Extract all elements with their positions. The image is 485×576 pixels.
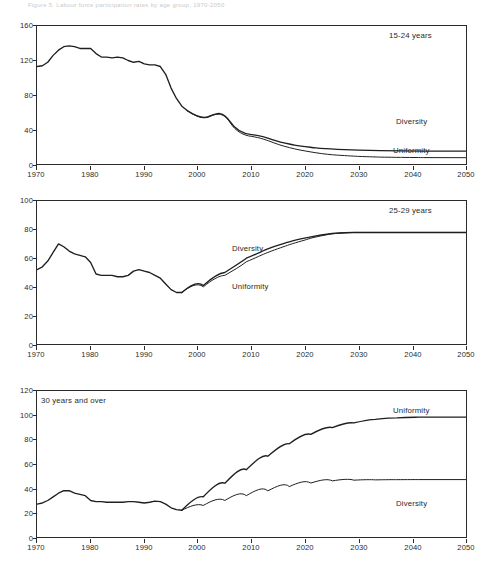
xtick-label-15-24-1990: 1990 <box>135 170 152 179</box>
xtick-label-15-24-1980: 1980 <box>81 170 98 179</box>
xtick-label-15-24-2030: 2030 <box>350 170 367 179</box>
xtick-mark-30-plus-2010 <box>251 539 252 543</box>
xtick-label-30-plus-2020: 2020 <box>296 543 313 552</box>
xtick-mark-25-29-2040 <box>413 346 414 350</box>
xtick-label-25-29-2050: 2050 <box>457 350 474 359</box>
xtick-label-30-plus-1990: 1990 <box>135 543 152 552</box>
series-label-diversity-30-plus: Diversity <box>396 499 427 508</box>
xtick-mark-30-plus-1990 <box>144 539 145 543</box>
ytick-mark-30-plus-20 <box>33 513 37 514</box>
ytick-label-30-plus-60: 60 <box>3 460 33 469</box>
ytick-label-25-29-80: 80 <box>3 225 33 234</box>
series-path-historical-30-plus <box>37 491 182 511</box>
ytick-label-30-plus-100: 100 <box>3 410 33 419</box>
xtick-label-25-29-2020: 2020 <box>296 350 313 359</box>
series-label-uniformity-25-29: Uniformity <box>232 282 269 291</box>
series-label-diversity-15-24: Diversity <box>396 117 427 126</box>
figure-root: Figure 5. Labour force participation rat… <box>0 0 485 576</box>
xtick-mark-25-29-1980 <box>90 346 91 350</box>
xtick-mark-15-24-1980 <box>90 166 91 170</box>
xtick-mark-30-plus-1970 <box>36 539 37 543</box>
xtick-label-30-plus-1970: 1970 <box>27 543 44 552</box>
ytick-mark-25-29-100 <box>33 200 37 201</box>
series-path-diversity-25-29 <box>182 232 466 292</box>
xtick-mark-25-29-1990 <box>144 346 145 350</box>
xtick-mark-15-24-1990 <box>144 166 145 170</box>
xtick-label-30-plus-2010: 2010 <box>242 543 259 552</box>
chart-panel-25-29: 25-29 years Diversity Uniformity 100 80 … <box>0 190 485 375</box>
ytick-mark-15-24-40 <box>33 130 37 131</box>
ytick-mark-30-plus-40 <box>33 489 37 490</box>
xtick-mark-30-plus-1980 <box>90 539 91 543</box>
ytick-label-25-29-20: 20 <box>3 312 33 321</box>
xtick-label-15-24-2040: 2040 <box>404 170 421 179</box>
xtick-label-25-29-2030: 2030 <box>350 350 367 359</box>
xtick-label-25-29-1980: 1980 <box>81 350 98 359</box>
ytick-label-30-plus-40: 40 <box>3 484 33 493</box>
series-label-uniformity-15-24: Uniformity <box>393 146 430 155</box>
xtick-label-30-plus-2050: 2050 <box>457 543 474 552</box>
series-path-uniformity-25-29 <box>182 232 466 292</box>
series-path-historical-15-24 <box>37 46 187 111</box>
xtick-mark-15-24-2010 <box>251 166 252 170</box>
xtick-label-15-24-2010: 2010 <box>242 170 259 179</box>
panel-title-30-plus: 30 years and over <box>41 396 106 405</box>
xtick-mark-25-29-2010 <box>251 346 252 350</box>
ytick-mark-15-24-160 <box>33 25 37 26</box>
ytick-mark-15-24-80 <box>33 95 37 96</box>
ytick-label-25-29-0: 0 <box>3 341 33 350</box>
xtick-label-15-24-1970: 1970 <box>27 170 44 179</box>
ytick-mark-25-29-60 <box>33 258 37 259</box>
xtick-mark-15-24-2030 <box>359 166 360 170</box>
xtick-label-15-24-2000: 2000 <box>188 170 205 179</box>
series-label-diversity-25-29: Diversity <box>232 244 263 253</box>
ytick-label-25-29-60: 60 <box>3 254 33 263</box>
xtick-mark-25-29-2050 <box>466 346 467 350</box>
ytick-mark-25-29-40 <box>33 287 37 288</box>
ytick-label-15-24-80: 80 <box>3 91 33 100</box>
ytick-mark-30-plus-100 <box>33 415 37 416</box>
xtick-mark-25-29-2020 <box>305 346 306 350</box>
plot-area-25-29 <box>36 200 467 345</box>
xtick-mark-25-29-2000 <box>197 346 198 350</box>
plot-svg-25-29 <box>37 201 466 344</box>
chart-panel-30-plus: 30 years and over Uniformity Diversity 1… <box>0 380 485 576</box>
ytick-label-15-24-160: 160 <box>3 21 33 30</box>
xtick-mark-15-24-2050 <box>466 166 467 170</box>
plot-area-15-24 <box>36 25 467 165</box>
ytick-mark-30-plus-80 <box>33 439 37 440</box>
ytick-label-25-29-100: 100 <box>3 196 33 205</box>
ytick-mark-30-plus-120 <box>33 390 37 391</box>
xtick-label-25-29-1970: 1970 <box>27 350 44 359</box>
ytick-label-15-24-120: 120 <box>3 56 33 65</box>
xtick-label-30-plus-2000: 2000 <box>188 543 205 552</box>
panel-title-15-24: 15-24 years <box>389 31 432 40</box>
xtick-mark-25-29-2030 <box>359 346 360 350</box>
ytick-label-30-plus-0: 0 <box>3 534 33 543</box>
ytick-label-15-24-0: 0 <box>3 161 33 170</box>
series-path-uniformity-30-plus <box>182 417 466 510</box>
xtick-label-25-29-2010: 2010 <box>242 350 259 359</box>
chart-panel-15-24: 15-24 years Diversity Uniformity 160 120… <box>0 0 485 185</box>
xtick-mark-30-plus-2050 <box>466 539 467 543</box>
xtick-mark-15-24-1970 <box>36 166 37 170</box>
xtick-mark-30-plus-2020 <box>305 539 306 543</box>
plot-svg-15-24 <box>37 26 466 164</box>
xtick-mark-30-plus-2040 <box>413 539 414 543</box>
xtick-mark-15-24-2020 <box>305 166 306 170</box>
ytick-mark-25-29-20 <box>33 316 37 317</box>
ytick-label-30-plus-120: 120 <box>3 386 33 395</box>
xtick-mark-15-24-2040 <box>413 166 414 170</box>
xtick-label-30-plus-2030: 2030 <box>350 543 367 552</box>
series-path-historical-25-29 <box>37 244 182 293</box>
xtick-label-25-29-2000: 2000 <box>188 350 205 359</box>
panel-title-25-29: 25-29 years <box>389 206 432 215</box>
xtick-mark-30-plus-2000 <box>197 539 198 543</box>
series-label-uniformity-30-plus: Uniformity <box>393 406 430 415</box>
xtick-label-15-24-2020: 2020 <box>296 170 313 179</box>
ytick-mark-15-24-120 <box>33 60 37 61</box>
xtick-label-15-24-2050: 2050 <box>457 170 474 179</box>
ytick-label-30-plus-80: 80 <box>3 435 33 444</box>
xtick-mark-25-29-1970 <box>36 346 37 350</box>
ytick-label-25-29-40: 40 <box>3 283 33 292</box>
